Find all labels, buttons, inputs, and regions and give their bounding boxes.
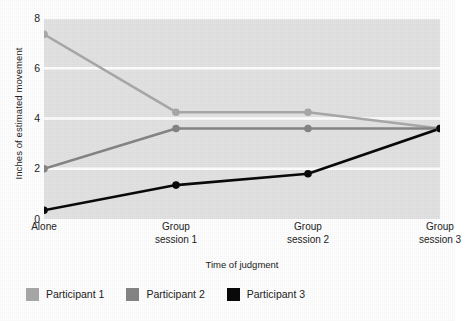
legend-color-swatch	[126, 288, 139, 301]
legend-item-label: Participant 3	[247, 288, 305, 300]
plot-area	[44, 18, 440, 219]
x-axis-tick-label-line: Group	[380, 221, 466, 234]
x-axis-tick-label: Groupsession 3	[380, 221, 466, 246]
legend-color-swatch	[227, 288, 240, 301]
y-axis-tick-labels: 02468	[22, 0, 40, 321]
x-axis-tick-label-line: session 3	[380, 234, 466, 247]
x-axis-tick-label: Groupsession 2	[248, 221, 368, 246]
x-axis-tick-label-line: Group	[116, 221, 236, 234]
series-lines	[44, 34, 440, 210]
x-axis-tick-label-line: session 2	[248, 234, 368, 247]
legend-item-label: Participant 1	[46, 288, 104, 300]
legend-color-swatch	[26, 288, 39, 301]
x-axis-tick-label: Alone	[0, 221, 104, 234]
data-point-marker	[304, 108, 312, 116]
chart-legend: Participant 1Participant 2Participant 3	[26, 284, 327, 304]
legend-item: Participant 2	[126, 288, 204, 301]
y-axis-tick-label: 2	[24, 163, 40, 174]
y-axis-tick-label: 6	[24, 63, 40, 74]
data-point-marker	[436, 125, 440, 133]
data-point-marker	[172, 108, 180, 116]
gridlines	[44, 18, 440, 169]
data-point-marker	[172, 125, 180, 133]
y-axis-tick-label: 8	[24, 13, 40, 24]
legend-item: Participant 3	[227, 288, 305, 301]
legend-item: Participant 1	[26, 288, 104, 301]
x-axis-tick-label: Groupsession 1	[116, 221, 236, 246]
x-axis-tick-label-line: Group	[248, 221, 368, 234]
plot-svg	[44, 18, 440, 219]
legend-item-label: Participant 2	[146, 288, 204, 300]
data-point-marker	[44, 206, 48, 214]
x-axis-tick-label-line: session 1	[116, 234, 236, 247]
data-point-marker	[304, 170, 312, 178]
x-axis-tick-label-line: Alone	[0, 221, 104, 234]
x-axis-title: Time of judgment	[44, 259, 440, 270]
data-point-marker	[44, 165, 48, 173]
x-axis-tick-labels: AloneGroupsession 1Groupsession 2Groupse…	[44, 221, 440, 255]
y-axis-tick-label: 4	[24, 113, 40, 124]
data-point-marker	[304, 125, 312, 133]
series-line	[44, 34, 440, 128]
data-point-marker	[172, 181, 180, 189]
